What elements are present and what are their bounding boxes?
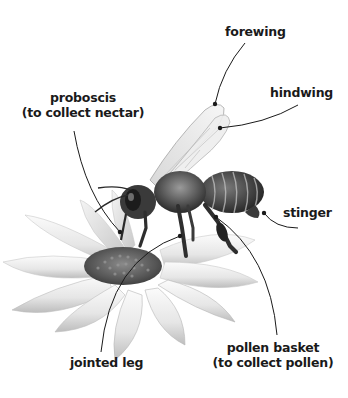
pollen-basket-text: pollen basket	[213, 340, 334, 355]
illustration	[0, 0, 348, 398]
proboscis-description: (to collect nectar)	[22, 105, 145, 120]
pollen-basket-dot	[214, 215, 218, 219]
bee-anatomy-diagram: forewing hindwing proboscis (to collect …	[0, 0, 348, 398]
hindwing-leader	[220, 105, 298, 128]
hindwing-dot	[218, 126, 222, 130]
flower-center	[84, 247, 162, 285]
stinger-label: stinger	[283, 205, 332, 220]
proboscis-label: proboscis (to collect nectar)	[22, 90, 145, 120]
proboscis-dot	[118, 230, 122, 234]
stinger-text: stinger	[283, 205, 332, 220]
hindwing-label: hindwing	[270, 85, 333, 100]
forewing-leader	[215, 43, 245, 104]
pollen-basket-description: (to collect pollen)	[213, 355, 334, 370]
jointed-leg-text: jointed leg	[70, 355, 143, 370]
stinger-dot	[262, 211, 266, 215]
hindwing-text: hindwing	[270, 85, 333, 100]
jointed-leg-dot	[178, 234, 182, 238]
jointed-leg-label: jointed leg	[70, 355, 143, 370]
forewing-text: forewing	[225, 24, 286, 39]
pollen-basket-label: pollen basket (to collect pollen)	[213, 340, 334, 370]
proboscis-text: proboscis	[22, 90, 145, 105]
forewing-dot	[213, 102, 217, 106]
forewing-label: forewing	[225, 24, 286, 39]
